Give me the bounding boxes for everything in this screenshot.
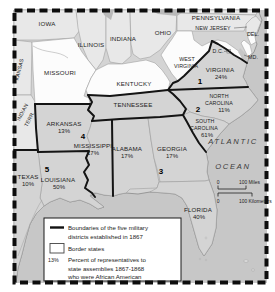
district-number-2: 2 [196, 105, 201, 114]
label-west-virginia-line2: VIRGINIA [174, 63, 198, 69]
label-virginia: VIRGINIA [206, 66, 235, 73]
label-tennessee: TENNESSEE [114, 101, 153, 108]
label-louisiana-pct: 50% [53, 184, 66, 190]
label-south-carolina-line2: CAROLINA [190, 125, 218, 131]
district-boundary-ms-al [112, 120, 113, 196]
florida-keys [199, 258, 201, 260]
legend-boundaries-line2: districts established in 1867 [68, 233, 143, 240]
legend-border-state-swatch [50, 244, 64, 254]
label-north-carolina-line1: NORTH [209, 93, 228, 99]
label-ocean: OCEAN [215, 162, 251, 171]
scale-miles-zero: 0 [217, 180, 220, 185]
label-mississippi-pct: 17% [87, 150, 100, 156]
label-georgia: GEORGIA [157, 145, 188, 152]
label-mississippi: MISSISSIPPI [74, 142, 113, 149]
label-alabama: ALABAMA [112, 145, 143, 152]
legend-border-states-label: Border states [68, 245, 104, 252]
label-virginia-pct: 24% [215, 74, 228, 80]
legend-pct-line1: Percent of representatives to [68, 256, 147, 263]
legend-pct-line2: state assemblies 1867-1868 [68, 265, 145, 272]
legend-boundaries-line1: Boundaries of the five military [68, 224, 149, 231]
scale-miles-label: 100 Miles [239, 180, 260, 185]
label-pennsylvania: PENNSYLVANIA [192, 14, 241, 21]
label-maryland: MD. [248, 54, 258, 60]
label-alabama-pct: 17% [121, 153, 134, 159]
label-ohio: OHIO [155, 29, 171, 36]
label-louisiana: LOUISIANA [41, 176, 76, 183]
legend-pct-sample: 13% [48, 257, 59, 263]
label-west-virginia-line1: WEST [179, 56, 195, 62]
label-illinois: ILLINOIS [78, 41, 105, 48]
district-number-4: 4 [81, 132, 86, 141]
scale-km-zero: 0 [217, 199, 220, 204]
bahamas-island-2 [251, 269, 254, 271]
label-north-carolina-pct: 11% [218, 107, 230, 113]
label-new-jersey: NEW JERSEY [195, 25, 231, 31]
label-delaware: DEL. [247, 31, 259, 37]
label-indiana: INDIANA [110, 35, 137, 42]
label-arkansas-pct: 13% [58, 128, 71, 134]
reconstruction-map-figure: IOWA ILLINOIS INDIANA OHIO PENNSYLVANIA … [0, 0, 275, 292]
label-dc: D.C. [213, 48, 224, 54]
label-arkansas: ARKANSAS [47, 120, 82, 127]
label-kentucky: KENTUCKY [117, 80, 152, 87]
label-iowa: IOWA [39, 20, 57, 27]
label-south-carolina-line1: SOUTH [195, 118, 214, 124]
legend-pct-line3: who were African American [67, 273, 142, 280]
label-florida-pct: 40% [193, 214, 206, 220]
district-number-1: 1 [198, 77, 203, 86]
bahamas-island [244, 260, 248, 263]
district-number-5: 5 [45, 165, 50, 174]
florida-keys-2 [205, 259, 207, 261]
label-texas: TEXAS [17, 173, 38, 180]
label-north-carolina-line2: CAROLINA [205, 100, 233, 106]
lake-okeechobee [205, 237, 208, 240]
map-canvas: IOWA ILLINOIS INDIANA OHIO PENNSYLVANIA … [0, 0, 275, 292]
district-number-3: 3 [159, 167, 164, 176]
label-texas-pct: 10% [22, 181, 35, 187]
label-florida: FLORIDA [184, 206, 213, 213]
label-missouri: MISSOURI [44, 69, 76, 76]
label-georgia-pct: 17% [166, 153, 179, 159]
label-atlantic: ATLANTIC [207, 137, 258, 146]
legend: Boundaries of the five military district… [44, 218, 181, 281]
